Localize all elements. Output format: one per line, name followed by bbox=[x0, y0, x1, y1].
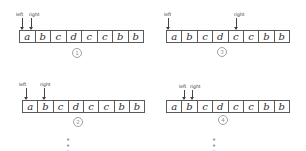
cell: c bbox=[54, 101, 69, 112]
right-arrow-icon bbox=[31, 18, 32, 29]
right-arrow-icon bbox=[44, 88, 45, 99]
cell: d bbox=[69, 101, 84, 112]
right-pointer-label: right bbox=[234, 12, 245, 17]
step-number-badge: 3 bbox=[217, 47, 227, 57]
cell: b bbox=[259, 31, 274, 42]
step-number-badge: 4 bbox=[218, 115, 228, 125]
left-arrow-icon bbox=[168, 18, 169, 29]
cell: c bbox=[82, 31, 98, 42]
right-arrow-icon bbox=[192, 90, 193, 99]
left-pointer-label: left bbox=[16, 12, 23, 17]
cell: b bbox=[38, 101, 53, 112]
char-array: a b c d c c b b bbox=[19, 30, 144, 43]
left-arrow-icon bbox=[184, 90, 185, 99]
cell: b bbox=[275, 101, 289, 112]
right-pointer-label: right bbox=[40, 82, 51, 87]
right-pointer-label: right bbox=[29, 12, 40, 17]
step-number-badge: 1 bbox=[72, 48, 82, 58]
cell: a bbox=[167, 31, 182, 42]
cell: a bbox=[167, 101, 182, 112]
cell: c bbox=[51, 31, 67, 42]
left-pointer-label: left bbox=[164, 12, 171, 17]
left-pointer-label: left bbox=[179, 84, 186, 89]
cell: a bbox=[23, 101, 38, 112]
cell: d bbox=[67, 31, 83, 42]
ellipsis: • • • bbox=[212, 137, 218, 151]
right-arrow-icon bbox=[236, 18, 237, 29]
cell: b bbox=[115, 101, 130, 112]
cell: c bbox=[229, 101, 244, 112]
step-number-badge: 2 bbox=[73, 117, 83, 127]
cell: c bbox=[198, 31, 213, 42]
cell: b bbox=[275, 31, 289, 42]
cell: d bbox=[213, 31, 228, 42]
cell: d bbox=[213, 101, 228, 112]
cell: b bbox=[182, 101, 197, 112]
char-array: a b c d c c b b bbox=[166, 100, 290, 113]
ellipsis: • • • bbox=[66, 137, 72, 151]
char-array: a b c d c c b b bbox=[22, 100, 145, 113]
cell: c bbox=[244, 101, 259, 112]
cell: a bbox=[20, 31, 36, 42]
cell: b bbox=[113, 31, 129, 42]
cell: c bbox=[244, 31, 259, 42]
left-arrow-icon bbox=[26, 88, 27, 99]
right-pointer-label: right bbox=[190, 84, 201, 89]
cell: b bbox=[129, 31, 144, 42]
left-pointer-label: left bbox=[19, 82, 26, 87]
cell: c bbox=[84, 101, 99, 112]
cell: b bbox=[36, 31, 52, 42]
cell: b bbox=[182, 31, 197, 42]
cell: c bbox=[198, 101, 213, 112]
char-array: a b c d c c b b bbox=[166, 30, 290, 43]
left-arrow-icon bbox=[22, 18, 23, 29]
cell: c bbox=[229, 31, 244, 42]
cell: b bbox=[130, 101, 144, 112]
cell: c bbox=[98, 31, 114, 42]
cell: c bbox=[99, 101, 114, 112]
cell: b bbox=[259, 101, 274, 112]
